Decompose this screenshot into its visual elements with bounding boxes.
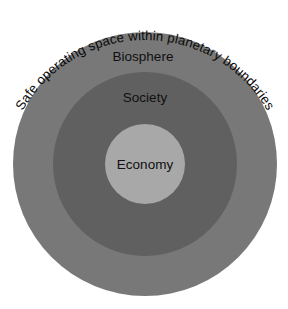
label-society: Society xyxy=(123,90,168,105)
diagram-canvas: Safe operating space within planetary bo… xyxy=(0,0,288,309)
label-economy: Economy xyxy=(117,157,174,172)
nested-circles-diagram: Safe operating space within planetary bo… xyxy=(0,0,288,309)
label-biosphere: Biosphere xyxy=(113,49,174,64)
